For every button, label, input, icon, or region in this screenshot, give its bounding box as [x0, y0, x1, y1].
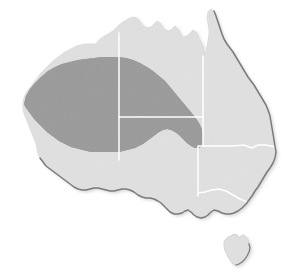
tasmania-texture	[224, 234, 250, 265]
australia-map-svg: Australia Western Australia, southern No…	[0, 0, 304, 273]
map-figure: Australia Western Australia, southern No…	[0, 0, 304, 273]
